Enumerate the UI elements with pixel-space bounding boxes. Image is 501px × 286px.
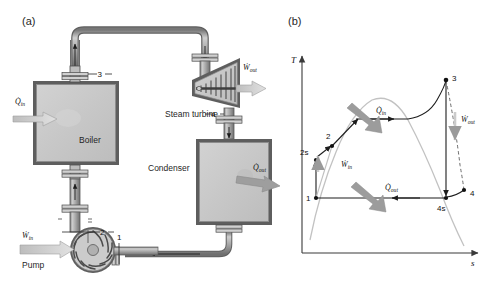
pump-body <box>70 227 116 273</box>
work-out-label-ts: Ẇout <box>461 115 475 125</box>
heat-in-label-ts: Q̇in <box>376 106 386 116</box>
heat-out-label-ts: Q̇out <box>385 183 398 193</box>
work-in-label-ts: Ẇin <box>341 160 352 170</box>
figure-svg: 3 Q̇in Boiler <box>0 0 501 286</box>
boiler-outlet-nozzle <box>62 66 112 82</box>
t-axis-label: T <box>291 55 297 65</box>
ts-diagram: Q̇in Q̇out Ẇin Ẇout 1 2s 2 3 4 4s T s <box>291 55 478 268</box>
s-axis-label: s <box>471 258 475 268</box>
schematic-state-2-label: 2 <box>100 228 105 237</box>
heat-in-label-schematic: Q̇in <box>15 97 25 107</box>
steam-turbine-body <box>192 58 240 108</box>
work-out-label-schematic: Ẇout <box>243 63 257 73</box>
work-out-arrow-schematic <box>236 81 266 96</box>
work-in-label-schematic: Ẇin <box>22 231 33 241</box>
pump-suction-line <box>114 243 158 264</box>
schematic-state-4-label: 4 <box>211 110 216 119</box>
state-point-1 <box>314 196 318 200</box>
process-4-4s <box>447 190 464 197</box>
ts-state-label-2: 2 <box>326 132 331 141</box>
saturation-dome <box>310 98 464 246</box>
figure-container: 3 Q̇in Boiler <box>0 0 501 286</box>
ts-state-label-3: 3 <box>452 74 457 83</box>
process-2-sat <box>332 119 358 146</box>
work-in-arrow-schematic <box>20 241 74 258</box>
state-point-4s <box>444 196 448 200</box>
state-point-4 <box>462 188 466 192</box>
schematic-state-1-label: 1 <box>117 233 122 242</box>
condenser-label: Condenser <box>148 163 190 173</box>
heat-out-arrow-ts <box>351 182 386 212</box>
panel-b-label: (b) <box>288 15 301 27</box>
pump-label: Pump <box>22 260 44 270</box>
panel-a-label: (a) <box>22 15 35 27</box>
state-point-3 <box>444 78 449 83</box>
ts-state-label-2s: 2s <box>300 148 308 157</box>
schematic-state-3-label: 3 <box>98 70 103 79</box>
ts-state-label-1: 1 <box>306 194 311 203</box>
process-superheat <box>408 80 446 119</box>
state-point-2 <box>330 144 334 148</box>
ts-state-label-4: 4 <box>470 189 475 198</box>
boiler-inlet-nozzle <box>58 165 92 232</box>
pipe-condenser-to-pump <box>112 225 242 265</box>
ts-state-label-4s: 4s <box>437 204 445 213</box>
boiler-label: Boiler <box>79 135 101 145</box>
pipe-boiler-to-turbine <box>71 30 206 66</box>
